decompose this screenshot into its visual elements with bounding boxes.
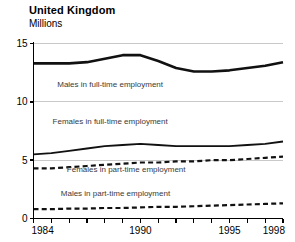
series-lines: [34, 55, 284, 209]
y-tick-label: 15: [16, 38, 28, 49]
y-tick-label: 10: [16, 96, 28, 107]
x-tick-label: 1990: [129, 225, 152, 236]
series-annotation: Females in part-time employment: [67, 165, 186, 174]
series-annotation: Males in full-time employment: [57, 80, 164, 89]
y-tick-label: 0: [22, 213, 28, 224]
series-line: [34, 142, 284, 155]
chart-container: United Kingdom Millions 051015 198419901…: [0, 0, 295, 242]
x-tick-label: 1998: [263, 225, 286, 236]
y-axis: 051015: [16, 38, 33, 224]
x-tick-label: 1984: [32, 225, 55, 236]
x-axis: 1984199019951998: [32, 219, 286, 237]
y-tick-label: 5: [22, 155, 28, 166]
series-annotation: Females in full-time employment: [53, 117, 169, 126]
series-line: [34, 203, 284, 209]
series-annotation: Males in part-time employment: [61, 189, 171, 198]
chart-plot-area: 051015 1984199019951998 Males in full-ti…: [0, 0, 295, 242]
series-annotations: Males in full-time employmentFemales in …: [53, 80, 187, 199]
series-line: [34, 55, 284, 71]
x-tick-label: 1995: [218, 225, 241, 236]
